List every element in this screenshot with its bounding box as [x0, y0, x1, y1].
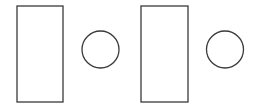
shape-canvas: [0, 0, 255, 110]
shape-canvas-root: [0, 0, 255, 110]
canvas-background: [0, 0, 255, 110]
